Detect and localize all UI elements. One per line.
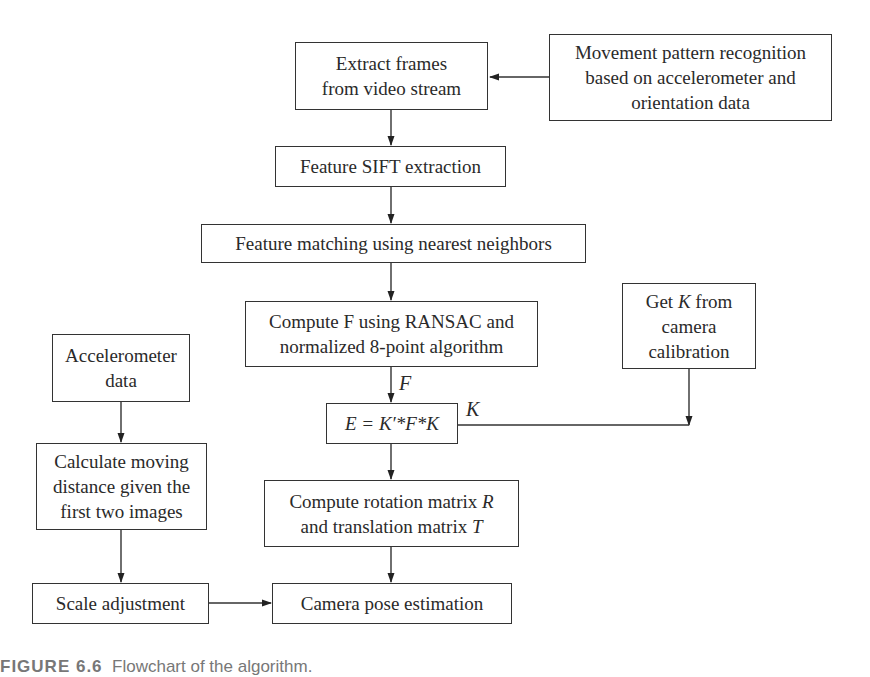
node-calculate-distance: Calculate moving distance given the firs… [36,443,207,530]
caption-text: Flowchart of the algorithm. [112,657,312,676]
node-text: Scale adjustment [56,591,185,616]
node-text: calibration [646,339,733,364]
node-text-part: Compute rotation matrix [289,491,482,512]
variable-r: R [482,491,494,512]
node-essential-matrix: E = K′*F*K [326,403,458,444]
node-text: based on accelerometer and [575,65,806,90]
edge-label-k: K [466,398,479,421]
caption-label: FIGURE 6.6 [0,657,103,676]
node-text: and translation matrix T [289,514,493,539]
node-text-part: and translation matrix [300,516,471,537]
variable-k: K [678,291,691,312]
variable-t: T [472,516,483,537]
node-text: normalized 8-point algorithm [269,334,514,359]
figure-caption: FIGURE 6.6 Flowchart of the algorithm. [0,657,312,677]
node-scale-adjustment: Scale adjustment [32,583,209,624]
node-text: Feature SIFT extraction [300,154,481,179]
node-text: camera [646,314,733,339]
node-text: Camera pose estimation [301,591,484,616]
node-compute-rotation-translation: Compute rotation matrix R and translatio… [264,480,519,547]
node-text: Feature matching using nearest neighbors [235,231,552,256]
node-text: from video stream [322,76,461,101]
node-text: first two images [53,499,190,524]
node-accelerometer-data: Accelerometer data [52,334,190,402]
node-text: data [65,368,177,393]
node-text: Get K from [646,289,733,314]
node-text: distance given the [53,474,190,499]
node-feature-sift-extraction: Feature SIFT extraction [275,146,506,187]
node-camera-pose-estimation: Camera pose estimation [272,583,512,624]
edge-label-f: F [399,372,411,395]
node-compute-f: Compute F using RANSAC and normalized 8-… [245,301,538,367]
node-extract-frames: Extract frames from video stream [295,42,488,110]
node-text: Calculate moving [53,449,190,474]
node-text: Compute rotation matrix R [289,489,493,514]
node-movement-pattern-recognition: Movement pattern recognition based on ac… [549,34,832,121]
node-text: Extract frames [322,51,461,76]
node-text-part: Get [646,291,678,312]
node-text: Movement pattern recognition [575,40,806,65]
node-feature-matching: Feature matching using nearest neighbors [201,224,586,263]
node-get-k: Get K from camera calibration [622,283,756,369]
node-text: Accelerometer [65,343,177,368]
formula-text: E = K′*F*K [345,411,439,436]
node-text: Compute F using RANSAC and [269,309,514,334]
node-text: orientation data [575,90,806,115]
node-text-part: from [691,291,733,312]
